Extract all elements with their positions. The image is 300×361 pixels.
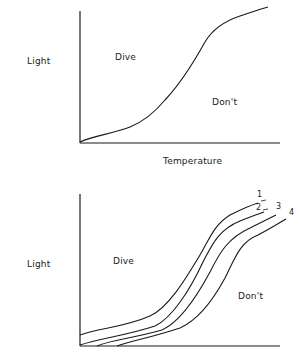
chart2-region-dive: Dive <box>113 256 134 266</box>
curve-label-1: 1 <box>257 190 262 199</box>
chart2-region-dont: Don't <box>238 291 263 301</box>
curve-label-2: 2 <box>256 203 261 212</box>
chart2-curve-3 <box>97 215 276 346</box>
chart1-y-label: Light <box>27 56 50 66</box>
chart1-boundary-curve <box>80 7 268 142</box>
chart1-x-label: Temperature <box>163 156 222 166</box>
chart2-curve-2 <box>80 212 264 345</box>
curve-label-3: 3 <box>276 202 281 211</box>
curve-2-tick <box>263 209 268 210</box>
curve-1-tick <box>261 200 266 201</box>
chart1-region-dive: Dive <box>115 52 136 62</box>
chart2-curve-4 <box>117 219 286 346</box>
chart1-region-dont: Don't <box>212 97 237 107</box>
curve-label-4: 4 <box>289 208 294 217</box>
chart2-y-label: Light <box>27 259 50 269</box>
charts-canvas <box>0 0 300 361</box>
